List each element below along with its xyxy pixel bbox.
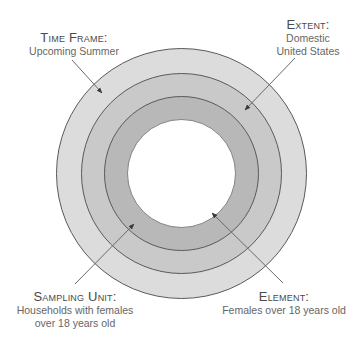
label-extent: Extent: Domestic United States: [263, 17, 353, 58]
label-element-desc: Females over 18 years old: [212, 304, 356, 317]
label-extent-desc-line1: Domestic: [263, 32, 353, 45]
leader-time-frame: [72, 60, 102, 93]
label-time-frame-desc: Upcoming Summer: [22, 45, 126, 58]
label-time-frame-title: Time Frame:: [22, 30, 126, 45]
label-sampling-unit-desc-line2: over 18 years old: [10, 317, 140, 330]
label-sampling-unit-title: Sampling Unit:: [10, 289, 140, 304]
label-sampling-unit: Sampling Unit: Households with females o…: [10, 289, 140, 330]
label-element: Element: Females over 18 years old: [212, 289, 356, 317]
label-element-title: Element:: [212, 289, 356, 304]
label-extent-title: Extent:: [263, 17, 353, 32]
label-sampling-unit-desc-line1: Households with females: [10, 304, 140, 317]
label-extent-desc-line2: United States: [263, 45, 353, 58]
label-time-frame: Time Frame: Upcoming Summer: [22, 30, 126, 58]
circle-element: [128, 120, 236, 228]
